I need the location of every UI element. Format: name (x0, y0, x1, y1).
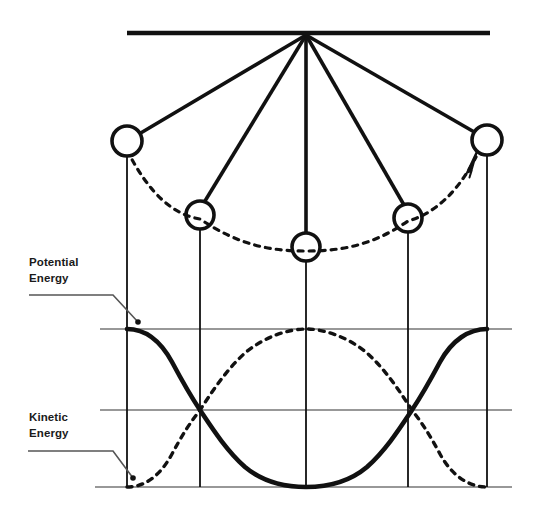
potential-energy-leader-dot (135, 319, 141, 325)
bob-bottom-center (292, 233, 320, 261)
kinetic-energy-label-line1: Kinetic (29, 411, 69, 423)
callout-leaders (28, 295, 141, 481)
bob-right-extreme (472, 125, 502, 155)
pendulum-energy-figure: Potential Energy Kinetic Energy (0, 0, 535, 516)
string-left-extreme (139, 35, 306, 134)
kinetic-energy-label-line2: Energy (29, 427, 69, 439)
string-right-extreme (306, 35, 476, 133)
bob-mid-left (186, 201, 214, 229)
kinetic-energy-leader-dot (130, 475, 136, 481)
potential-energy-leader-line (29, 295, 138, 322)
string-mid-right (306, 35, 404, 205)
graph-gridlines (95, 329, 512, 487)
kinetic-energy-leader-line (28, 451, 133, 478)
potential-energy-label-line1: Potential (29, 256, 78, 268)
potential-energy-label-line2: Energy (29, 272, 69, 284)
string-mid-left (205, 35, 306, 201)
potential-energy-curve (127, 329, 487, 487)
swing-path-arc (127, 150, 476, 251)
potential-energy-label: Potential Energy (29, 256, 78, 284)
pendulum-energy-diagram: Potential Energy Kinetic Energy (0, 0, 535, 516)
kinetic-energy-curve (127, 329, 487, 487)
bob-left-extreme (112, 126, 142, 156)
kinetic-energy-label: Kinetic Energy (29, 411, 69, 439)
